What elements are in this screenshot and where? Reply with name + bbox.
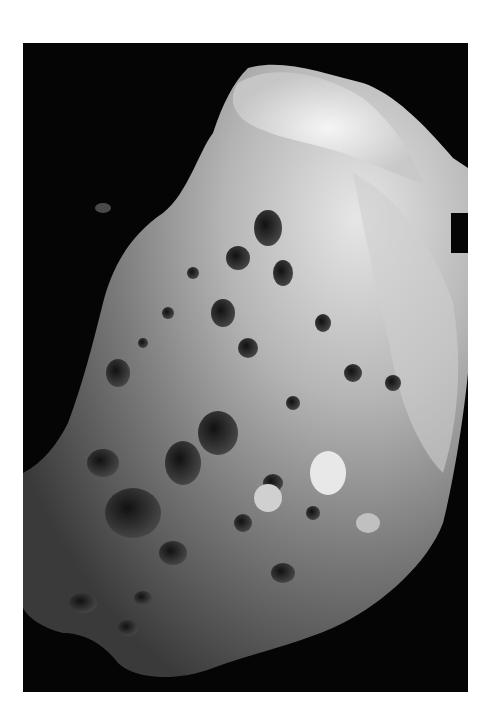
moon-illustration	[23, 43, 468, 692]
moon-photograph	[23, 43, 468, 692]
